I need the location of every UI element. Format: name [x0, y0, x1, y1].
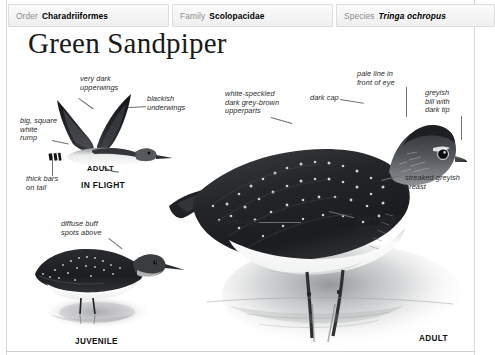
adult-illustration [167, 80, 467, 352]
annotation-diffuse-buff-spots: diffuse buff spots above [61, 220, 101, 237]
taxonomy-cell-species: Species Tringa ochropus [336, 4, 495, 27]
taxonomy-value-family: Scolopacidae [209, 11, 264, 21]
leader-bill [461, 116, 462, 140]
juvenile-illustration [25, 222, 185, 337]
taxonomy-bar: Order Charadriiformes Family Scolopacida… [8, 4, 472, 25]
annotation-greenish-legs: greenish legs [215, 218, 260, 227]
annotation-white-speckled-upperparts: white-speckled dark grey-brown upperpart… [225, 90, 279, 116]
taxonomy-value-species: Tringa ochropus [379, 11, 446, 21]
taxonomy-label-species: Species [344, 11, 375, 21]
annotation-very-dark-upperwings: very dark upperwings [80, 75, 118, 92]
annotation-greyish-bill-dark-tip: greyish bill with dark tip [425, 89, 450, 115]
caption-adult: ADULT [419, 334, 448, 343]
leader-tail-bars [52, 156, 53, 176]
caption-juvenile: JUVENILE [75, 337, 118, 346]
caption-flight-adult: ADULT [87, 164, 114, 173]
taxonomy-cell-order: Order Charadriiformes [8, 4, 169, 27]
page-rule-right [474, 0, 475, 355]
annotation-pale-line-front-of-eye: pale line in front of eye [357, 70, 395, 87]
leader-pale-line [406, 87, 407, 117]
annotation-thick-bars-on-tail: thick bars on tail [26, 175, 58, 192]
annotation-dark-cap: dark cap [310, 94, 339, 103]
page-title: Green Sandpiper [28, 27, 227, 60]
leader-legs [259, 222, 301, 223]
illustration-plate: very dark upperwings blackish underwings… [7, 60, 474, 352]
caption-in-flight: IN FLIGHT [81, 180, 125, 190]
taxonomy-value-order: Charadriiformes [42, 11, 108, 21]
taxonomy-cell-family: Family Scolopacidae [172, 4, 333, 27]
annotation-bright-white-underside: bright white underside [357, 215, 395, 232]
taxonomy-label-family: Family [180, 11, 205, 21]
annotation-streaked-greyish-breast: streaked greyish breast [405, 174, 460, 191]
tail-bars [49, 153, 62, 161]
taxonomy-label-order: Order [16, 11, 38, 21]
